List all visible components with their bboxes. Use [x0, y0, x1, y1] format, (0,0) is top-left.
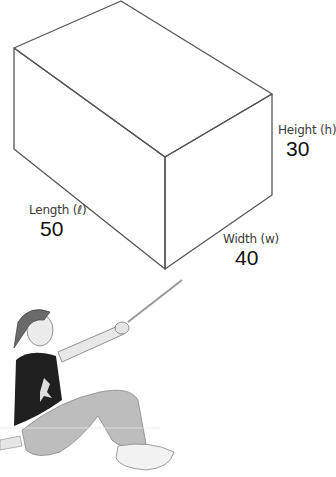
- width-label: Width (w): [223, 233, 279, 245]
- height-value: 30: [286, 138, 309, 159]
- pointer-stick: [128, 280, 182, 322]
- shoes: [116, 444, 174, 470]
- top-face: [14, 1, 272, 157]
- boy-illustration: [0, 270, 200, 477]
- length-label: Length (ℓ): [29, 204, 87, 216]
- width-value: 40: [235, 247, 258, 268]
- hand: [115, 322, 129, 334]
- left-face: [14, 48, 165, 269]
- arm: [58, 326, 124, 362]
- support-hand: [0, 436, 22, 450]
- height-label: Height (h): [278, 124, 336, 136]
- length-value: 50: [40, 218, 63, 239]
